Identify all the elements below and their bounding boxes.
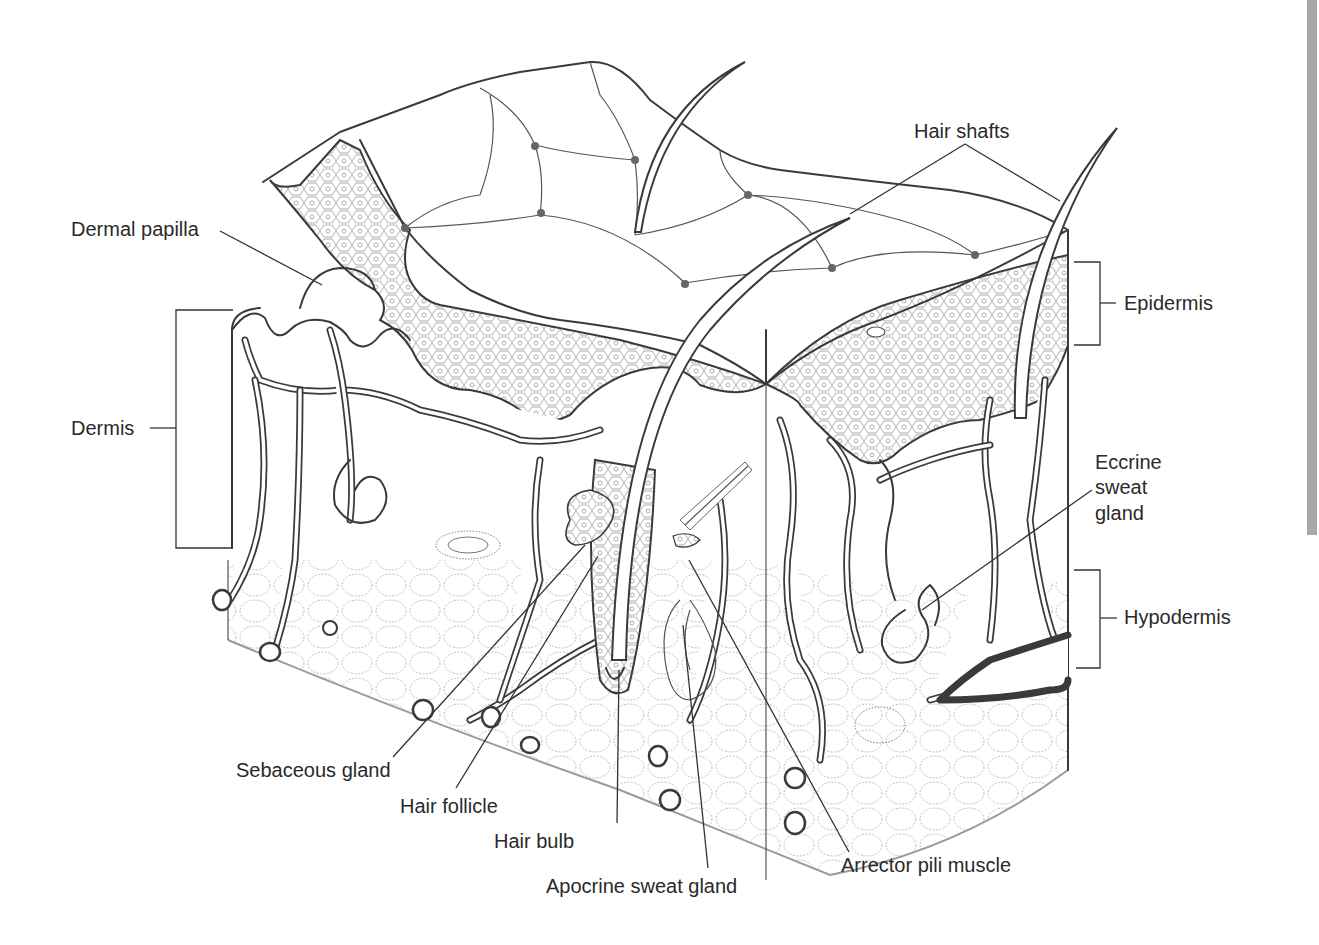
label-apocrine-sweat-gland: Apocrine sweat gland <box>546 875 737 897</box>
skin-cross-section-diagram: Hair shafts Dermal papilla Epidermis Der… <box>0 0 1319 945</box>
label-epidermis: Epidermis <box>1124 292 1213 314</box>
label-dermis: Dermis <box>71 417 134 439</box>
dermis-bracket <box>150 310 233 548</box>
label-eccrine-line1: Eccrine <box>1095 451 1162 473</box>
label-eccrine-line2: sweat <box>1095 476 1148 498</box>
label-eccrine-line3: gland <box>1095 502 1144 524</box>
label-dermal-papilla: Dermal papilla <box>71 218 200 240</box>
page-edge-bar <box>1307 0 1317 535</box>
epidermis-bracket <box>1074 262 1116 345</box>
epidermis-layer <box>270 140 1068 463</box>
label-hypodermis: Hypodermis <box>1124 606 1231 628</box>
label-arrector-pili-muscle: Arrector pili muscle <box>841 854 1011 876</box>
label-hair-follicle: Hair follicle <box>400 795 498 817</box>
hypodermis-bracket <box>1074 570 1117 668</box>
arrector-pili-muscle <box>673 462 752 547</box>
label-hair-shafts: Hair shafts <box>914 120 1010 142</box>
hypodermis-layer <box>228 560 1068 875</box>
label-hair-bulb: Hair bulb <box>494 830 574 852</box>
label-sebaceous-gland: Sebaceous gland <box>236 759 391 781</box>
